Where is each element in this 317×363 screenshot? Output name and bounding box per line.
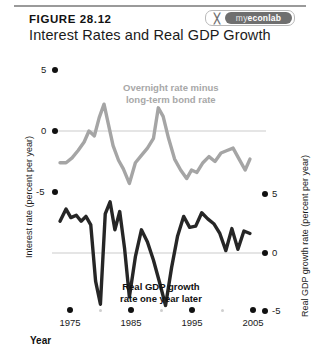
- header-rule: [14, 5, 306, 7]
- myeconlab-logo-icon: ╳: [208, 12, 225, 24]
- right-axis-tick-dot-0: [262, 250, 268, 256]
- annotation-overnight-rate: Overnight rate minus long-term bond rate: [123, 82, 219, 105]
- left-axis-tick-dot-5: [52, 67, 58, 73]
- x-axis-minor-dot-1990: [160, 309, 163, 312]
- annotation-real-gdp-growth-line1: Real GDP growth: [120, 281, 202, 293]
- x-axis-title: Year: [30, 335, 51, 346]
- annotation-overnight-rate-line2: long-term bond rate: [123, 94, 219, 106]
- right-axis-title: Real GDP growth rate (percent per year): [300, 155, 310, 317]
- left-axis-tick-label-0: 0: [41, 125, 46, 136]
- right-axis-tick-dot-5: [262, 191, 268, 197]
- annotation-overnight-rate-line1: Overnight rate minus: [123, 82, 219, 94]
- myeconlab-prefix: my: [236, 13, 248, 23]
- x-axis-label-1975: 1975: [50, 317, 90, 328]
- right-axis-tick-label-neg5: -5: [272, 305, 280, 316]
- x-axis-label-1985: 1985: [111, 317, 151, 328]
- myeconlab-label: myeconlab: [225, 12, 292, 24]
- figure-number: FIGURE 28.12: [29, 13, 112, 25]
- left-axis-tick-label-neg5: -5: [36, 186, 44, 197]
- annotation-real-gdp-growth-line2: rate one year later: [120, 293, 202, 305]
- x-axis-minor-dot-1980: [99, 309, 102, 312]
- figure-title: Interest Rates and Real GDP Growth: [29, 27, 271, 43]
- left-axis-tick-dot-0: [52, 128, 58, 134]
- annotation-real-gdp-growth: Real GDP growth rate one year later: [120, 281, 202, 304]
- left-axis-title: Interest rate (percent per year): [24, 136, 34, 258]
- x-axis-tick-dot-1985: [128, 307, 134, 313]
- x-axis-label-2005: 2005: [233, 317, 273, 328]
- figure-container: FIGURE 28.12 Interest Rates and Real GDP…: [0, 0, 317, 363]
- myeconlab-name: econlab: [248, 13, 282, 23]
- left-axis-tick-label-5: 5: [41, 64, 46, 75]
- right-axis-tick-label-5: 5: [272, 188, 277, 199]
- x-axis-tick-dot-2005: [250, 307, 256, 313]
- series-line-overnight-rate-spread: [60, 104, 250, 183]
- x-axis-tick-dot-1975: [67, 307, 73, 313]
- left-axis-tick-dot-neg5: [52, 189, 58, 195]
- right-axis-tick-dot-neg5: [262, 308, 268, 314]
- right-axis-tick-label-0: 0: [272, 247, 277, 258]
- x-axis-tick-dot-1995: [189, 307, 195, 313]
- x-axis-minor-dot-2000: [221, 309, 224, 312]
- myeconlab-badge[interactable]: ╳ myeconlab: [205, 10, 295, 26]
- x-axis-label-1995: 1995: [172, 317, 212, 328]
